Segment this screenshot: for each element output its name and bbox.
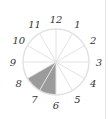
hour-label-1: 1 bbox=[74, 19, 80, 30]
hour-label-6: 6 bbox=[53, 100, 60, 111]
hour-label-2: 2 bbox=[89, 35, 96, 46]
hour-label-7: 7 bbox=[31, 94, 38, 105]
hour-label-8: 8 bbox=[16, 78, 22, 89]
hour-label-3: 3 bbox=[96, 57, 102, 68]
hour-label-10: 10 bbox=[12, 35, 25, 46]
clock-diagram: 121234567891011 bbox=[0, 0, 110, 119]
hour-label-4: 4 bbox=[89, 78, 96, 89]
hour-label-9: 9 bbox=[10, 57, 17, 68]
hour-label-12: 12 bbox=[50, 14, 63, 25]
hour-label-11: 11 bbox=[28, 19, 41, 30]
hour-label-5: 5 bbox=[74, 94, 80, 105]
